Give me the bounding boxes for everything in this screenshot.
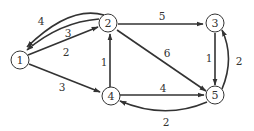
node-label-2: 2 xyxy=(105,17,112,30)
edge-label-1-2: 2 xyxy=(63,46,70,58)
node-label-3: 3 xyxy=(212,17,219,30)
node-label-1: 1 xyxy=(17,54,24,67)
node-label-4: 4 xyxy=(108,90,115,103)
edges xyxy=(27,13,229,111)
edge-label-4-2: 1 xyxy=(101,56,108,68)
edge-label-2-1-outer: 4 xyxy=(38,15,45,27)
node-5: 5 xyxy=(206,86,224,104)
edge-label-5-4: 2 xyxy=(163,116,170,128)
node-label-5: 5 xyxy=(212,89,219,102)
edge-label-1-4: 3 xyxy=(59,81,66,93)
node-2: 2 xyxy=(99,14,117,32)
edge-label-2-3: 5 xyxy=(159,10,166,22)
edge-5-4 xyxy=(120,101,207,111)
node-1: 1 xyxy=(11,51,29,69)
nodes: 1 2 3 4 5 xyxy=(11,14,224,105)
directed-weighted-graph: 2 3 4 3 1 5 6 1 2 4 2 1 2 3 4 5 xyxy=(0,0,254,131)
edge-label-2-5: 6 xyxy=(164,47,171,59)
edge-label-3-5: 1 xyxy=(206,52,213,64)
node-3: 3 xyxy=(206,14,224,32)
edge-label-5-3: 2 xyxy=(236,55,243,67)
edge-5-3 xyxy=(222,30,229,89)
edge-label-2-1-inner: 3 xyxy=(65,27,72,39)
node-4: 4 xyxy=(102,87,120,105)
edge-label-4-5: 4 xyxy=(160,82,167,94)
